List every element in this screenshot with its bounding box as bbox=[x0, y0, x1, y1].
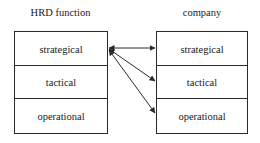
arrow-strategical-to-operational bbox=[109, 50, 155, 113]
arrow-strategical-to-tactical bbox=[109, 49, 155, 81]
connector-arrows bbox=[0, 0, 260, 143]
